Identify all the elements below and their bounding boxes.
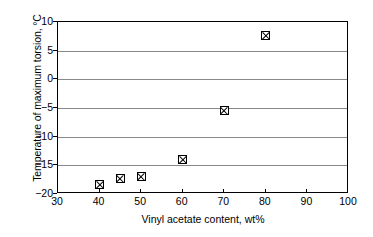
x-tick-label: 100 [328,196,368,207]
x-axis-title: Vinyl acetate content, wt% [57,213,349,225]
data-point-marker [261,31,270,40]
y-tick-label: 10 [13,16,53,27]
gridline [58,165,347,166]
x-tick-mark [265,189,266,193]
y-tick-label: −15 [13,159,53,170]
x-tick-mark [223,189,224,193]
y-tick-mark [53,50,57,51]
y-tick-label: 0 [13,73,53,84]
x-tick-mark [99,189,100,193]
y-tick-mark [53,193,57,194]
x-tick-label: 80 [245,196,285,207]
y-tick-mark [53,136,57,137]
gridline [58,51,347,52]
x-tick-mark [182,189,183,193]
x-tick-label: 60 [162,196,202,207]
y-tick-label: 5 [13,45,53,56]
x-tick-label: 90 [286,196,326,207]
y-tick-mark [53,21,57,22]
x-tick-label: 70 [203,196,243,207]
data-point-marker [220,106,229,115]
plot-area [57,21,348,193]
data-point-marker [95,180,104,189]
x-tick-mark [140,189,141,193]
x-tick-label: 30 [37,196,77,207]
y-tick-label: −5 [13,102,53,113]
gridline [58,108,347,109]
x-tick-mark [306,189,307,193]
x-tick-label: 50 [120,196,160,207]
y-tick-label: −10 [13,131,53,142]
gridline [58,137,347,138]
chart-container: Temperature of maximum torsion, °C 1050−… [0,0,373,237]
x-tick-label: 40 [79,196,119,207]
gridline [58,79,347,80]
data-point-marker [178,155,187,164]
y-tick-mark [53,107,57,108]
data-point-marker [116,174,125,183]
data-point-marker [137,172,146,181]
y-tick-mark [53,164,57,165]
y-tick-mark [53,78,57,79]
